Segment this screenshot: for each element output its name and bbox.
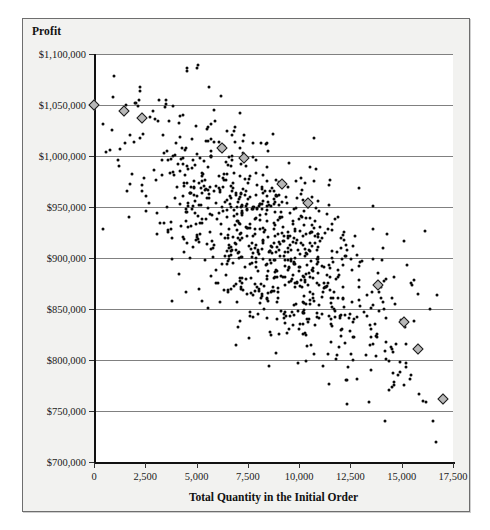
scatter-point xyxy=(366,293,369,296)
scatter-point xyxy=(369,324,372,327)
scatter-point xyxy=(190,207,193,210)
scatter-point xyxy=(356,254,359,257)
scatter-point xyxy=(176,162,179,165)
scatter-point xyxy=(313,242,316,245)
y-tick-label: $800,000 xyxy=(47,355,86,366)
scatter-point xyxy=(278,249,281,252)
scatter-point xyxy=(279,215,282,218)
scatter-point xyxy=(357,286,360,289)
scatter-point xyxy=(179,202,182,205)
scatter-point xyxy=(245,293,248,296)
scatter-point xyxy=(388,388,391,391)
scatter-point xyxy=(185,70,188,73)
scatter-point xyxy=(178,121,181,124)
x-tick-mark xyxy=(248,463,249,468)
scatter-point xyxy=(226,130,229,133)
scatter-point xyxy=(310,344,313,347)
scatter-point xyxy=(182,114,185,117)
scatter-point xyxy=(266,269,269,272)
scatter-point xyxy=(308,165,311,168)
scatter-point xyxy=(166,206,169,209)
scatter-point xyxy=(248,222,251,225)
scatter-point xyxy=(373,323,376,326)
frontier-marker xyxy=(412,343,423,354)
scatter-point xyxy=(254,246,257,249)
scatter-point xyxy=(240,256,243,259)
scatter-point xyxy=(240,286,243,289)
y-tick-label: $850,000 xyxy=(47,304,86,315)
scatter-point xyxy=(279,210,282,213)
scatter-point xyxy=(342,238,345,241)
scatter-point xyxy=(261,173,264,176)
scatter-point xyxy=(265,212,268,215)
y-tick-mark xyxy=(89,360,94,361)
scatter-point xyxy=(280,200,283,203)
scatter-point xyxy=(138,86,141,89)
scatter-point xyxy=(339,334,342,337)
scatter-point xyxy=(156,120,159,123)
scatter-point xyxy=(296,280,299,283)
scatter-point xyxy=(240,203,243,206)
scatter-point xyxy=(268,204,271,207)
scatter-point xyxy=(301,285,304,288)
scatter-point xyxy=(316,256,319,259)
scatter-point xyxy=(283,317,286,320)
scatter-point xyxy=(245,203,248,206)
scatter-point xyxy=(171,236,174,239)
scatter-point xyxy=(277,233,280,236)
scatter-point xyxy=(283,250,286,253)
scatter-point xyxy=(314,235,317,238)
scatter-point xyxy=(343,254,346,257)
scatter-point xyxy=(233,130,236,133)
scatter-point xyxy=(298,323,301,326)
scatter-point xyxy=(232,284,235,287)
scatter-point xyxy=(229,250,232,253)
scatter-point xyxy=(331,261,334,264)
scatter-point xyxy=(151,110,154,113)
scatter-point xyxy=(409,281,412,284)
scatter-point xyxy=(210,248,213,251)
scatter-point xyxy=(198,182,201,185)
scatter-point xyxy=(253,227,256,230)
scatter-point xyxy=(193,186,196,189)
x-tick-mark xyxy=(453,463,454,468)
scatter-point xyxy=(194,199,197,202)
scatter-point xyxy=(229,202,232,205)
scatter-point xyxy=(369,336,372,339)
scatter-point xyxy=(302,243,305,246)
scatter-point xyxy=(261,258,264,261)
y-tick-label: $950,000 xyxy=(47,202,86,213)
x-tick-label: 0 xyxy=(91,471,96,482)
scatter-point xyxy=(370,368,373,371)
scatter-point xyxy=(206,188,209,191)
scatter-point xyxy=(236,229,239,232)
scatter-point xyxy=(303,255,306,258)
scatter-point xyxy=(313,299,316,302)
scatter-point xyxy=(239,239,242,242)
scatter-point xyxy=(179,135,182,138)
scatter-point xyxy=(352,318,355,321)
scatter-point xyxy=(197,287,200,290)
scatter-point xyxy=(247,182,250,185)
scatter-point xyxy=(384,341,387,344)
scatter-point xyxy=(274,271,277,274)
scatter-point xyxy=(196,215,199,218)
scatter-point xyxy=(272,197,275,200)
scatter-point xyxy=(212,140,215,143)
gridline xyxy=(94,156,453,157)
scatter-point xyxy=(152,169,155,172)
scatter-point xyxy=(196,153,199,156)
scatter-point xyxy=(429,307,432,310)
scatter-point xyxy=(361,260,364,263)
scatter-point xyxy=(315,249,318,252)
scatter-point xyxy=(167,120,170,123)
scatter-point xyxy=(214,119,217,122)
scatter-point xyxy=(308,217,311,220)
scatter-point xyxy=(225,172,228,175)
scatter-point xyxy=(326,352,329,355)
scatter-point xyxy=(300,241,303,244)
scatter-point xyxy=(246,198,249,201)
frontier-marker xyxy=(217,142,228,153)
y-axis-line xyxy=(94,54,96,463)
x-tick-label: 17,500 xyxy=(439,471,468,482)
